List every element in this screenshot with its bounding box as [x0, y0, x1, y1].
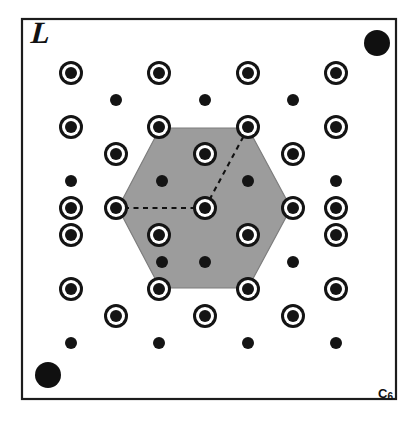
ringed-lattice-point — [59, 277, 83, 301]
plain-lattice-point — [199, 256, 211, 268]
ringed-lattice-point — [236, 277, 260, 301]
ringed-lattice-point — [193, 142, 217, 166]
ringed-lattice-point — [104, 196, 128, 220]
plain-lattice-point — [65, 175, 77, 187]
ringed-lattice-point — [236, 61, 260, 85]
plain-lattice-point — [153, 337, 165, 349]
ringed-lattice-point — [324, 61, 348, 85]
ringed-lattice-point — [59, 223, 83, 247]
ringed-lattice-point — [193, 196, 217, 220]
ringed-lattice-point — [147, 115, 171, 139]
ringed-lattice-point — [104, 142, 128, 166]
ringed-lattice-point — [281, 142, 305, 166]
plain-lattice-point — [199, 94, 211, 106]
plain-lattice-point — [65, 337, 77, 349]
ringed-lattice-point — [59, 61, 83, 85]
ringed-lattice-point — [147, 223, 171, 247]
ringed-lattice-point — [193, 304, 217, 328]
ringed-lattice-point — [324, 196, 348, 220]
plain-lattice-point — [156, 175, 168, 187]
ringed-lattice-point — [324, 277, 348, 301]
ringed-lattice-point — [236, 223, 260, 247]
plain-lattice-point — [156, 256, 168, 268]
lattice-figure: L C6 — [0, 0, 418, 422]
ringed-lattice-point — [324, 223, 348, 247]
plain-lattice-point — [242, 337, 254, 349]
plain-lattice-point — [330, 175, 342, 187]
ringed-lattice-point — [59, 196, 83, 220]
symmetry-label-c6: C6 — [378, 387, 393, 402]
symmetry-label-subscript: 6 — [387, 391, 393, 402]
ringed-lattice-point — [281, 304, 305, 328]
ringed-lattice-point — [324, 115, 348, 139]
plain-lattice-point — [330, 337, 342, 349]
plain-lattice-point — [287, 256, 299, 268]
bottom-left-corner-dot — [35, 362, 61, 388]
plain-lattice-point — [242, 175, 254, 187]
ringed-lattice-point — [147, 61, 171, 85]
plain-lattice-point — [287, 94, 299, 106]
ringed-lattice-point — [281, 196, 305, 220]
top-right-corner-dot — [364, 30, 390, 56]
ringed-lattice-point — [59, 115, 83, 139]
ringed-lattice-point — [104, 304, 128, 328]
lattice-label-L: L — [30, 17, 51, 48]
ringed-lattice-point — [236, 115, 260, 139]
lattice-canvas — [0, 0, 418, 422]
plain-lattice-point — [110, 94, 122, 106]
ringed-lattice-point — [147, 277, 171, 301]
